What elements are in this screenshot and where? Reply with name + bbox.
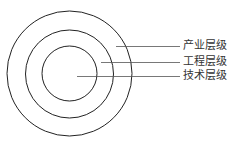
label-industry-level: 产业层级 [183, 40, 227, 52]
label-technology-level: 技术层级 [183, 70, 227, 82]
label-engineering-level: 工程层级 [183, 56, 227, 68]
middle-circle [26, 30, 114, 118]
inner-circle [42, 46, 97, 101]
